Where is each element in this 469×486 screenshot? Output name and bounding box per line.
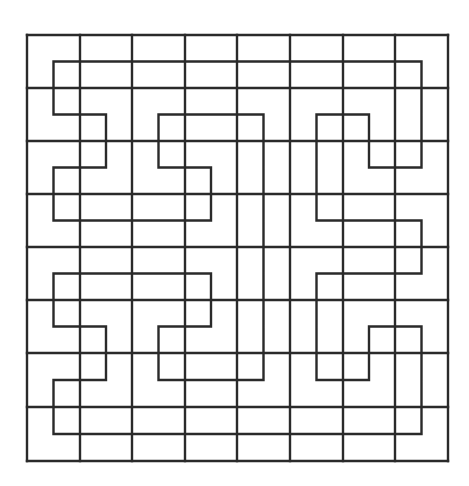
- grid-lines: [27, 35, 448, 461]
- grid-diagram: [0, 0, 469, 486]
